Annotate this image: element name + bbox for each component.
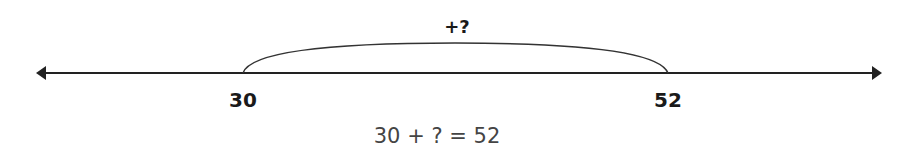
start-tick-label: 30 xyxy=(229,88,257,112)
right-arrow-icon xyxy=(872,66,882,80)
equation: 30 + ? = 52 xyxy=(374,124,500,148)
left-arrow-icon xyxy=(36,66,46,80)
end-tick-label: 52 xyxy=(654,88,682,112)
jump-arc xyxy=(243,43,668,73)
jump-label: +? xyxy=(444,16,470,37)
